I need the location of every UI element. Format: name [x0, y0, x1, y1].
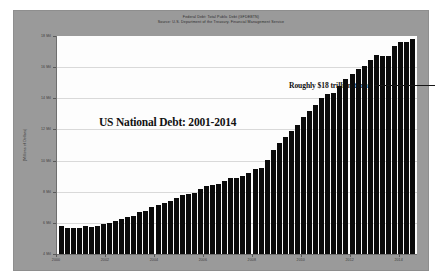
y-axis-label: 10 Mil	[41, 159, 51, 163]
bar	[295, 125, 300, 254]
bar	[186, 194, 191, 254]
bar	[240, 176, 245, 254]
bar	[331, 93, 336, 254]
bar	[319, 98, 324, 254]
bar	[271, 150, 276, 254]
bar	[131, 216, 136, 254]
x-axis-tick	[203, 254, 204, 257]
bar	[137, 212, 142, 254]
bar	[410, 39, 415, 254]
bar	[325, 94, 330, 254]
bar	[222, 181, 227, 254]
bar	[125, 217, 130, 254]
y-axis-label: 6 Mil	[43, 221, 51, 225]
bar	[174, 198, 179, 254]
screenshot-root: Federal Debt: Total Public Debt (GFDEBTN…	[0, 0, 441, 278]
x-axis-label: 2000	[52, 258, 60, 262]
bar	[149, 207, 154, 254]
bar	[113, 221, 118, 254]
bar	[192, 193, 197, 254]
x-axis-tick	[399, 254, 400, 257]
bar	[313, 105, 318, 254]
x-axis-tick	[252, 254, 253, 257]
bar	[398, 42, 403, 254]
x-axis-line	[56, 254, 417, 255]
y-axis-label: 14 Mil	[41, 96, 51, 100]
bar	[216, 184, 221, 254]
bar	[350, 74, 355, 254]
y-axis-label: 18 Mil	[41, 34, 51, 38]
x-axis-label: 2004	[150, 258, 158, 262]
bar	[210, 185, 215, 254]
bar	[143, 211, 148, 254]
chart-header-source: Source: U.S. Department of the Treasury.…	[14, 20, 428, 25]
bar	[59, 226, 64, 254]
y-axis-label: 8 Mil	[43, 190, 51, 194]
x-axis-label: 2002	[101, 258, 109, 262]
bar	[307, 111, 312, 254]
callout-leader-line	[375, 85, 435, 86]
chart-panel: Federal Debt: Total Public Debt (GFDEBTN…	[14, 11, 428, 270]
y-axis-label: 16 Mil	[41, 65, 51, 69]
chart-annotation-title: US National Debt: 2001-2014	[99, 116, 236, 128]
x-axis-tick	[154, 254, 155, 257]
x-axis-tick	[56, 254, 57, 257]
bar	[156, 205, 161, 254]
bar	[277, 143, 282, 254]
bar	[246, 173, 251, 254]
x-axis-tick	[105, 254, 106, 257]
x-axis-label: 2012	[345, 258, 353, 262]
bar	[77, 228, 82, 254]
bar	[83, 226, 88, 254]
bar	[362, 66, 367, 254]
bar	[289, 131, 294, 254]
y-axis-label: 4 Mil	[43, 252, 51, 256]
y-axis-label: 12 Mil	[41, 127, 51, 131]
bar	[404, 42, 409, 254]
bar	[65, 228, 70, 254]
bar	[204, 186, 209, 254]
bar	[337, 86, 342, 254]
bar	[265, 160, 270, 254]
bar	[107, 223, 112, 254]
bar	[101, 224, 106, 254]
x-axis-tick	[350, 254, 351, 257]
callout-annotation: Roughly $18 trillion today	[289, 81, 435, 90]
bar	[162, 203, 167, 254]
bar	[356, 69, 361, 254]
bar	[283, 137, 288, 255]
x-axis-label: 2014	[394, 258, 402, 262]
bar	[71, 228, 76, 254]
bar	[234, 178, 239, 254]
x-axis-label: 2010	[297, 258, 305, 262]
bar	[253, 169, 258, 254]
x-axis-label: 2008	[248, 258, 256, 262]
callout-label: Roughly $18 trillion today	[289, 81, 371, 90]
bar	[392, 46, 397, 254]
bar-series	[57, 36, 417, 254]
plot-area: US National Debt: 2001-2014 Roughly $18 …	[56, 36, 417, 254]
y-axis: 18 Mil16 Mil14 Mil12 Mil10 Mil8 Mil6 Mil…	[14, 36, 56, 254]
x-axis-label: 2006	[199, 258, 207, 262]
bar	[180, 195, 185, 254]
bar	[95, 226, 100, 254]
x-axis-tick	[301, 254, 302, 257]
bar	[301, 117, 306, 254]
x-axis: 20002002200420062008201020122014	[56, 254, 417, 268]
bar	[119, 219, 124, 254]
bar	[228, 178, 233, 254]
bar	[343, 79, 348, 254]
bar	[259, 168, 264, 254]
bar	[198, 189, 203, 254]
bar	[89, 227, 94, 254]
bar	[168, 201, 173, 254]
